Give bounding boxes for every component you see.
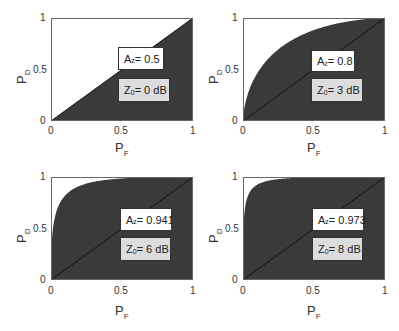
y-tick-0: 0	[232, 275, 238, 285]
y-tick-1: 1	[232, 172, 238, 182]
x-tick-0.5: 0.5	[306, 286, 320, 296]
x-tick-1: 1	[382, 286, 388, 296]
y-axis-label: PD	[206, 229, 224, 243]
az-annotation: Az = 0.973	[312, 208, 364, 231]
z0-annotation: Z0 = 8 dB	[312, 237, 363, 261]
y-tick-0.5: 0.5	[225, 224, 239, 234]
x-tick-0: 0	[240, 286, 246, 296]
x-axis-label: PF	[307, 303, 321, 321]
roc-panel-az-0.973: 1 0.5 0 0 0.5 1 PF PD Az = 0.973 Z0 = 8 …	[0, 0, 399, 331]
